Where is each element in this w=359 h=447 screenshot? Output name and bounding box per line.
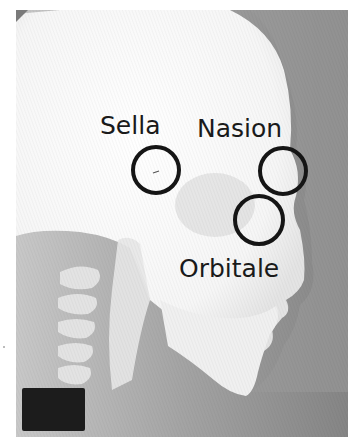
- cephalometric-xray-figure: Sella Nasion Orbitale: [0, 0, 359, 447]
- marker-block: [22, 388, 85, 431]
- orbitale-label: Orbitale: [179, 254, 279, 283]
- sella-label: Sella: [100, 111, 160, 140]
- stray-mark: [3, 346, 5, 348]
- nasion-label: Nasion: [197, 114, 282, 143]
- xray-image: [16, 10, 348, 437]
